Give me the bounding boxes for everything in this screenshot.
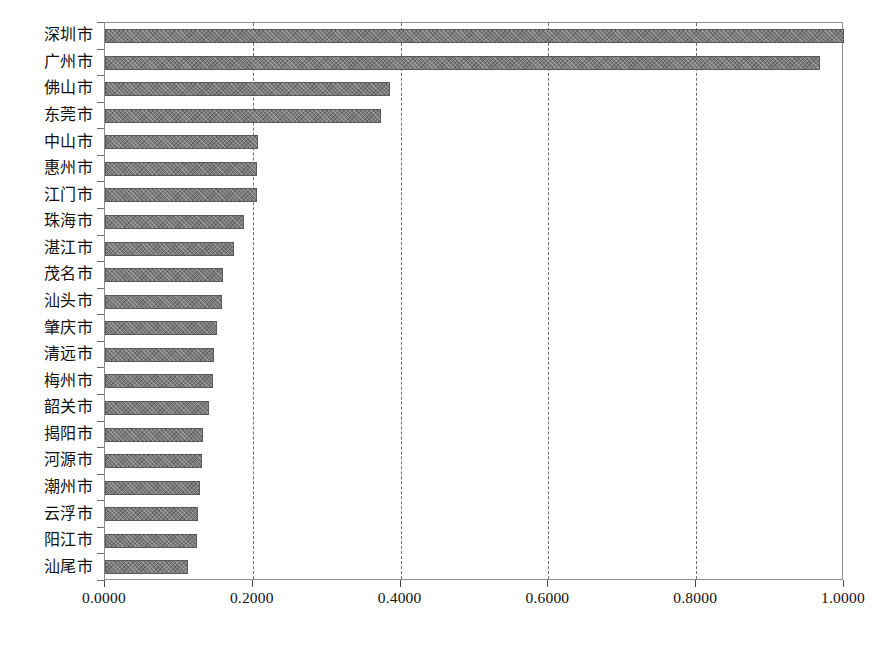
y-axis-label: 韶关市: [44, 399, 105, 415]
y-axis-label: 广州市: [44, 54, 105, 70]
y-axis-label: 云浮市: [44, 506, 105, 522]
bar-江门市[interactable]: [105, 188, 257, 202]
y-axis-tick: [97, 128, 104, 129]
bar-汕尾市[interactable]: [105, 560, 188, 574]
y-axis-label-row: 云浮市: [0, 500, 104, 527]
y-axis-tick: [97, 208, 104, 209]
bar-row: [105, 23, 842, 50]
bar-中山市[interactable]: [105, 135, 258, 149]
bar-肇庆市[interactable]: [105, 321, 217, 335]
x-axis-tick-label: 0.8000: [673, 589, 717, 607]
bar-潮州市[interactable]: [105, 481, 200, 495]
bar-row: [105, 395, 842, 422]
y-axis-tick: [97, 580, 104, 581]
bar-揭阳市[interactable]: [105, 428, 203, 442]
bar-row: [105, 368, 842, 395]
x-axis-tick: [695, 580, 696, 587]
y-axis-label: 茂名市: [44, 266, 105, 282]
bar-佛山市[interactable]: [105, 82, 390, 96]
y-axis-labels: 深圳市广州市佛山市东莞市中山市惠州市江门市珠海市湛江市茂名市汕头市肇庆市清远市梅…: [0, 22, 104, 580]
bar-珠海市[interactable]: [105, 215, 244, 229]
bar-row: [105, 448, 842, 475]
y-axis-tick: [97, 181, 104, 182]
bar-row: [105, 501, 842, 528]
y-axis-label-row: 茂名市: [0, 261, 104, 288]
x-axis-tick: [843, 580, 844, 587]
y-axis-tick: [97, 341, 104, 342]
y-axis-tick: [97, 421, 104, 422]
bar-row: [105, 236, 842, 263]
x-axis-tick-label: 0.6000: [525, 589, 569, 607]
y-axis-label-row: 梅州市: [0, 367, 104, 394]
x-axis: 0.00000.20000.40000.60000.80001.0000: [104, 580, 843, 620]
bar-row: [105, 209, 842, 236]
y-axis-label: 潮州市: [44, 479, 105, 495]
bar-云浮市[interactable]: [105, 507, 198, 521]
y-axis-label: 揭阳市: [44, 426, 105, 442]
bar-深圳市[interactable]: [105, 29, 844, 43]
y-axis-tick: [97, 102, 104, 103]
bars-layer: [105, 23, 842, 579]
y-axis-label-row: 珠海市: [0, 208, 104, 235]
y-axis-label-row: 惠州市: [0, 155, 104, 182]
y-axis-label: 湛江市: [44, 240, 105, 256]
y-axis-label-row: 河源市: [0, 447, 104, 474]
y-axis-tick: [97, 367, 104, 368]
bar-row: [105, 76, 842, 103]
x-axis-tick-label: 0.2000: [230, 589, 274, 607]
y-axis-label-row: 江门市: [0, 181, 104, 208]
y-axis-label-row: 阳江市: [0, 527, 104, 554]
bar-梅州市[interactable]: [105, 374, 213, 388]
x-axis-tick: [252, 580, 253, 587]
bar-茂名市[interactable]: [105, 268, 223, 282]
y-axis-tick: [97, 49, 104, 50]
y-axis-tick: [97, 22, 104, 23]
y-axis-tick: [97, 75, 104, 76]
bar-row: [105, 103, 842, 130]
bar-湛江市[interactable]: [105, 242, 234, 256]
y-axis-tick: [97, 500, 104, 501]
bar-阳江市[interactable]: [105, 534, 197, 548]
bar-row: [105, 342, 842, 369]
y-axis-label: 肇庆市: [44, 320, 105, 336]
bar-row: [105, 182, 842, 209]
y-axis-label-row: 中山市: [0, 128, 104, 155]
y-axis-tick: [97, 261, 104, 262]
y-axis-label-row: 肇庆市: [0, 314, 104, 341]
y-axis-label-row: 广州市: [0, 49, 104, 76]
y-axis-tick: [97, 447, 104, 448]
y-axis-label-row: 汕头市: [0, 288, 104, 315]
y-axis-label-row: 潮州市: [0, 474, 104, 501]
bar-row: [105, 528, 842, 555]
bar-row: [105, 262, 842, 289]
x-axis-tick: [547, 580, 548, 587]
y-axis-tick: [97, 527, 104, 528]
y-axis-label: 惠州市: [44, 160, 105, 176]
x-axis-tick-label: 0.0000: [82, 589, 126, 607]
bar-广州市[interactable]: [105, 56, 820, 70]
y-axis-label-row: 清远市: [0, 341, 104, 368]
y-axis-label: 珠海市: [44, 213, 105, 229]
bar-汕头市[interactable]: [105, 295, 222, 309]
y-axis-label: 河源市: [44, 452, 105, 468]
y-axis-label: 阳江市: [44, 532, 105, 548]
x-axis-tick: [104, 580, 105, 587]
x-axis-tick-label: 0.4000: [378, 589, 422, 607]
y-axis-label: 江门市: [44, 187, 105, 203]
y-axis-label-row: 东莞市: [0, 102, 104, 129]
bar-row: [105, 50, 842, 77]
bar-惠州市[interactable]: [105, 162, 257, 176]
y-axis-label-row: 湛江市: [0, 235, 104, 262]
bar-河源市[interactable]: [105, 454, 202, 468]
bar-东莞市[interactable]: [105, 109, 381, 123]
bar-韶关市[interactable]: [105, 401, 209, 415]
bar-row: [105, 475, 842, 502]
y-axis-label-row: 深圳市: [0, 22, 104, 49]
y-axis-tick: [97, 155, 104, 156]
y-axis-label: 深圳市: [44, 27, 105, 43]
bar-row: [105, 129, 842, 156]
plot-area: [104, 22, 843, 580]
y-axis-tick: [97, 235, 104, 236]
bar-清远市[interactable]: [105, 348, 214, 362]
y-axis-label-row: 揭阳市: [0, 421, 104, 448]
